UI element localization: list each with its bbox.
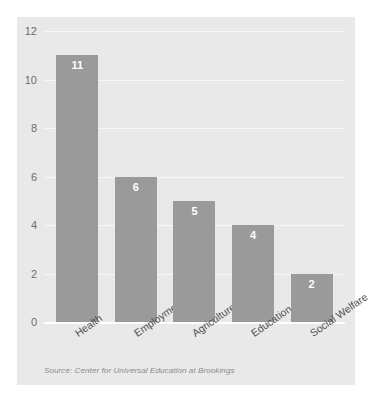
bars-group: 11Health6Employment5Agriculture4Educatio… bbox=[44, 31, 345, 322]
bar[interactable]: 11 bbox=[56, 55, 98, 322]
y-axis-tick-label: 10 bbox=[25, 74, 37, 85]
y-axis-tick-label: 2 bbox=[31, 268, 37, 279]
bar-value-label: 6 bbox=[115, 182, 157, 193]
bar-value-label: 2 bbox=[291, 279, 333, 290]
bar[interactable]: 6 bbox=[115, 177, 157, 323]
bar-slot: 4Education bbox=[224, 31, 283, 322]
bar-slot: 11Health bbox=[48, 31, 107, 322]
bar-slot: 6Employment bbox=[107, 31, 166, 322]
chart-panel: 024681012 11Health6Employment5Agricultur… bbox=[17, 17, 355, 385]
y-axis-tick-label: 4 bbox=[31, 220, 37, 231]
y-axis-tick-label: 6 bbox=[31, 171, 37, 182]
y-axis-tick-label: 0 bbox=[31, 317, 37, 328]
bar-slot: 5Agriculture bbox=[165, 31, 224, 322]
y-axis-tick-label: 8 bbox=[31, 123, 37, 134]
bar-slot: 2Social Welfare bbox=[282, 31, 341, 322]
bar[interactable]: 4 bbox=[232, 225, 274, 322]
bar-value-label: 5 bbox=[173, 206, 215, 217]
bar-value-label: 11 bbox=[56, 60, 98, 71]
bar-chart-figure: 024681012 11Health6Employment5Agricultur… bbox=[0, 0, 372, 408]
plot-area: 024681012 11Health6Employment5Agricultur… bbox=[44, 31, 345, 322]
bar-value-label: 4 bbox=[232, 230, 274, 241]
y-axis-tick-label: 12 bbox=[25, 26, 37, 37]
source-caption: Source: Center for Universal Education a… bbox=[44, 366, 235, 375]
bar[interactable]: 5 bbox=[173, 201, 215, 322]
